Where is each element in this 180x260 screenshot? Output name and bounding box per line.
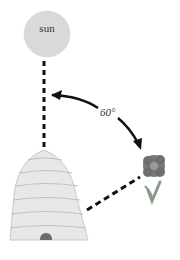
angle-label: 60° [99,106,116,118]
beehive [10,150,88,240]
bee-dance-diagram: sun 60° [0,0,180,260]
flower [143,155,165,201]
angle-arrow [51,90,142,150]
diagram-svg [0,0,180,260]
sun [24,11,70,57]
flower-direction-line [87,177,140,210]
sun-label: sun [24,22,70,34]
